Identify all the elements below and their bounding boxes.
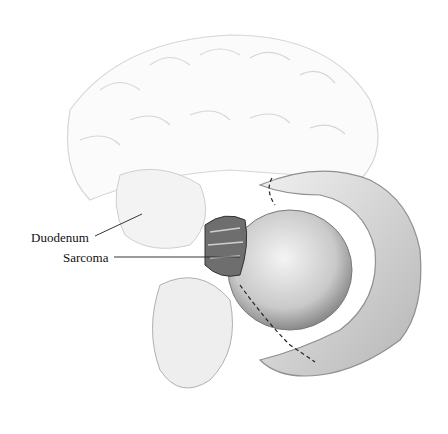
- anatomy-drawing: [0, 0, 448, 434]
- duodenum-shape: [116, 169, 206, 248]
- label-duodenum: Duodenum: [31, 231, 89, 244]
- vessel-region: [205, 216, 247, 276]
- label-sarcoma: Sarcoma: [63, 251, 108, 264]
